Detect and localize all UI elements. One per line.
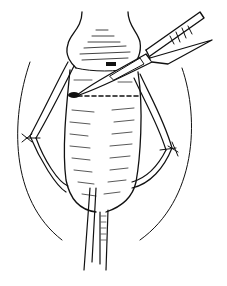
illustration-canvas — [0, 0, 227, 286]
penile-shaft — [64, 70, 141, 212]
surgical-illustration — [0, 0, 227, 286]
catheter — [84, 188, 108, 270]
left-skin-flap — [30, 62, 74, 192]
glans — [67, 12, 140, 71]
